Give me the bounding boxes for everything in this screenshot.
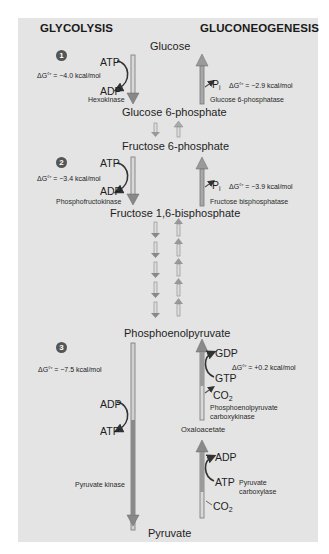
pyruvate-kinase-adp: ADP [100,398,122,410]
metabolite-phosphoenolpyruvate: Phosphoenolpyruvate [124,327,230,339]
enzyme-pyruvate-kinase: Pyruvate kinase [75,481,125,488]
pepck-arrow-icon [196,339,208,420]
pfk-arrow-icon [127,157,139,205]
co2-uptake-icon [206,501,212,505]
g6pase-arrow-icon [196,54,208,104]
g6pase-pi: Pi [212,78,221,91]
fbpase-delta-g: ΔG°′ = −3.9 kcal/mol [229,183,293,190]
step-badge-1: 1 [56,50,67,61]
pepck-delta-g: ΔG°′ = +0.2 kcal/mol [232,364,296,371]
enzyme-pyruvate-carboxylase-line2: carboxylase [239,488,276,495]
pc-atp: ATP [215,476,235,488]
step-badge-3: 3 [56,342,67,353]
hexokinase-arrow-icon [127,55,139,104]
pepck-gtp: GTP [215,372,237,384]
co2-release-icon [205,388,212,393]
metabolite-glucose-6-phosphate: Glucose 6-phosphate [122,106,227,118]
isomerase-arrows-icon [151,121,183,137]
fbpase-arrow-icon [196,157,208,206]
hexokinase-atp: ATP [100,56,120,68]
pyruvate-kinase-delta-g: ΔG°′ = −7.5 kcal/mol [38,366,102,373]
pfk-atp: ATP [100,157,120,169]
enzyme-hexokinase: Hexokinase [88,96,125,103]
metabolite-glucose: Glucose [150,40,190,52]
metabolite-fructose-6-phosphate: Fructose 6-phosphate [122,140,229,152]
g6pase-delta-g: ΔG°′ = −2.9 kcal/mol [229,82,293,89]
pyruvate-carboxylase-arrow-icon [196,440,208,518]
fbpase-pi: Pi [212,179,221,192]
pfk-adp: ADP [100,185,122,197]
middle-pathway-arrows-icon [151,218,183,318]
enzyme-pepck-line2: carboxykinase [210,413,255,420]
pepck-gdp: GDP [215,347,238,359]
pi-release-icon-2 [205,182,212,187]
enzyme-pepck-line1: Phosphoenolpyruvate [210,404,278,411]
step-badge-2: 2 [56,157,67,168]
enzyme-fructose-bisphosphatase: Fructose bisphosphatase [210,198,288,205]
pepck-co2: CO2 [213,389,233,402]
pc-co2: CO2 [213,500,233,513]
pc-adp: ADP [215,451,237,463]
gtp-gdp-curve-icon [205,353,214,377]
glycolysis-header: GLYCOLYSIS [40,22,113,34]
metabolite-pyruvate: Pyruvate [148,527,191,539]
pi-release-icon [205,82,212,87]
metabolite-oxaloacetate: Oxaloacetate [181,425,225,434]
pyruvate-kinase-atp: ATP [100,425,120,437]
enzyme-phosphofructokinase: Phosphofructokinase [56,198,121,205]
gluconeogenesis-header: GLUCONEOGENESIS [200,22,319,34]
metabolite-fructose-1-6-bisphosphate: Fructose 1,6-bisphosphate [110,207,240,219]
pfk-delta-g: ΔG°′ = −3.4 kcal/mol [37,175,101,182]
pyruvate-kinase-arrow-icon [127,343,139,530]
hexokinase-delta-g: ΔG°′ = −4.0 kcal/mol [37,72,101,79]
enzyme-glucose-6-phosphatase: Glucose 6-phosphatase [210,96,284,103]
atp-adp-curve-icon-pc [205,457,214,481]
enzyme-pyruvate-carboxylase-line1: Pyruvate [239,479,267,486]
